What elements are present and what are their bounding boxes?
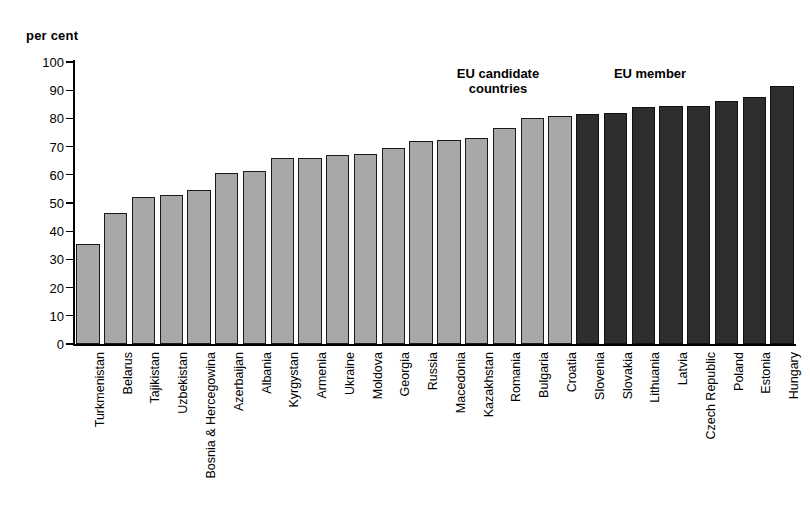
y-tick-mark-100 xyxy=(66,61,74,62)
annotation-eu-candidate-line2: countries xyxy=(432,81,564,96)
y-tick-label-40: 40 xyxy=(18,224,64,239)
x-label-belarus: Belarus xyxy=(121,352,135,394)
x-label-armenia: Armenia xyxy=(315,352,329,399)
y-tick-label-100: 100 xyxy=(18,55,64,70)
x-label-lithuania: Lithuania xyxy=(648,352,662,403)
bar-latvia xyxy=(659,106,682,344)
y-tick-label-0: 0 xyxy=(18,337,64,352)
y-tick-label-20: 20 xyxy=(18,280,64,295)
y-tick-mark-0 xyxy=(66,343,74,344)
x-label-georgia: Georgia xyxy=(398,352,412,396)
y-tick-mark-10 xyxy=(66,315,74,316)
bar-lithuania xyxy=(632,107,655,344)
x-label-russia: Russia xyxy=(426,352,440,390)
y-tick-mark-70 xyxy=(66,146,74,147)
bar-chart: per cent 0102030405060708090100 Turkmeni… xyxy=(0,0,810,529)
x-label-poland: Poland xyxy=(732,352,746,391)
y-tick-mark-20 xyxy=(66,287,74,288)
y-tick-mark-60 xyxy=(66,174,74,175)
y-tick-mark-30 xyxy=(66,259,74,260)
bar-ukraine xyxy=(326,155,349,344)
y-tick-label-60: 60 xyxy=(18,167,64,182)
bar-czech-republic xyxy=(687,106,710,344)
x-label-kazakhstan: Kazakhstan xyxy=(482,352,496,417)
x-label-kyrgystan: Kyrgystan xyxy=(287,352,301,408)
y-tick-label-30: 30 xyxy=(18,252,64,267)
annotation-eu-candidate-countries: EU candidate countries xyxy=(432,66,564,97)
x-label-macedonia: Macedonia xyxy=(454,352,468,413)
bar-hungary xyxy=(770,86,793,344)
x-label-albania: Albania xyxy=(260,352,274,394)
x-label-romania: Romania xyxy=(509,352,523,402)
bar-georgia xyxy=(382,148,405,344)
y-tick-label-50: 50 xyxy=(18,196,64,211)
bar-slovenia xyxy=(576,114,599,344)
x-label-azerbaijan: Azerbaijan xyxy=(232,352,246,411)
annotation-eu-member: EU member xyxy=(590,66,710,81)
x-label-slovakia: Slovakia xyxy=(621,352,635,399)
bar-azerbaijan xyxy=(215,173,238,344)
x-label-uzbekistan: Uzbekistan xyxy=(176,352,190,414)
x-label-slovenia: Slovenia xyxy=(593,352,607,400)
y-axis-unit-label: per cent xyxy=(26,28,78,43)
bar-kazakhstan xyxy=(465,138,488,344)
x-label-moldova: Moldova xyxy=(371,352,385,399)
y-tick-label-90: 90 xyxy=(18,83,64,98)
x-label-czech-republic: Czech Republic xyxy=(704,352,718,440)
y-tick-mark-40 xyxy=(66,231,74,232)
x-label-bosnia-hercegowina: Bosnia & Hercegowina xyxy=(204,352,218,478)
bar-albania xyxy=(243,171,266,344)
bar-estonia xyxy=(743,97,766,344)
plot-area xyxy=(74,62,796,344)
bar-macedonia xyxy=(437,140,460,344)
x-label-latvia: Latvia xyxy=(676,352,690,385)
y-tick-label-80: 80 xyxy=(18,111,64,126)
x-label-tajikistan: Tajikistan xyxy=(148,352,162,403)
annotation-eu-candidate-line1: EU candidate xyxy=(432,66,564,81)
y-tick-mark-90 xyxy=(66,90,74,91)
x-label-hungary: Hungary xyxy=(787,352,801,399)
y-tick-label-70: 70 xyxy=(18,139,64,154)
bar-tajikistan xyxy=(132,197,155,344)
bar-moldova xyxy=(354,154,377,344)
y-tick-mark-80 xyxy=(66,118,74,119)
x-axis-line xyxy=(73,344,796,346)
bar-belarus xyxy=(104,213,127,344)
bar-croatia xyxy=(548,116,571,344)
bar-bulgaria xyxy=(521,118,544,344)
bar-romania xyxy=(493,128,516,344)
y-tick-mark-50 xyxy=(66,202,74,203)
bar-russia xyxy=(409,141,432,344)
bar-slovakia xyxy=(604,113,627,344)
bar-poland xyxy=(715,101,738,344)
bar-kyrgystan xyxy=(271,158,294,344)
bar-uzbekistan xyxy=(160,195,183,344)
x-label-estonia: Estonia xyxy=(759,352,773,394)
x-label-turkmenistan: Turkmenistan xyxy=(93,352,107,427)
y-tick-label-10: 10 xyxy=(18,308,64,323)
bar-turkmenistan xyxy=(76,244,99,344)
x-label-bulgaria: Bulgaria xyxy=(537,352,551,398)
x-label-croatia: Croatia xyxy=(565,352,579,392)
bar-armenia xyxy=(298,158,321,344)
bar-bosnia-hercegowina xyxy=(187,190,210,344)
x-label-ukraine: Ukraine xyxy=(343,352,357,395)
